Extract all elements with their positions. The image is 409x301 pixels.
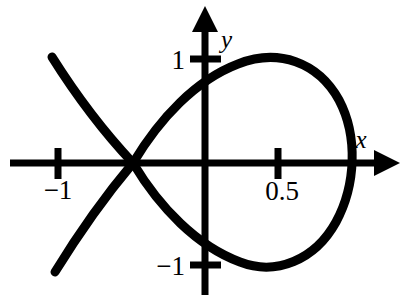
y-tick-label-minus-one: −1 (156, 251, 185, 281)
y-axis-label: y (218, 26, 233, 53)
curve-plot: −1 0.5 1 −1 y x (0, 0, 409, 301)
x-tick-label-minus-one: −1 (44, 175, 73, 205)
x-axis-label: x (354, 126, 366, 153)
figure-root: −1 0.5 1 −1 y x (0, 0, 409, 301)
y-tick-label-one: 1 (172, 45, 186, 75)
x-tick-label-zero-point-five: 0.5 (265, 176, 299, 206)
